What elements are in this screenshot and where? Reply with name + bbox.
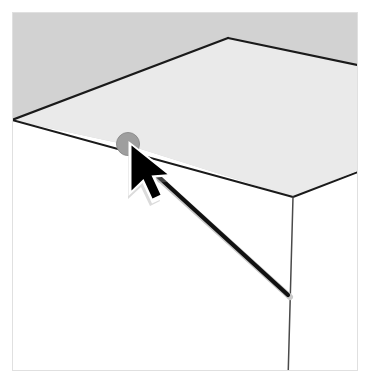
drawing-scene: the second line [0,0,370,383]
perspective-line-figure [0,0,370,383]
